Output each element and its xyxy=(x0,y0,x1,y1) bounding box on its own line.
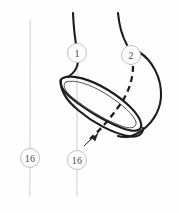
node-left-marker: 16 xyxy=(21,149,40,168)
strand-one-into-band xyxy=(68,62,78,77)
dashed-strand-group xyxy=(84,66,133,146)
node-strand-one: 1 xyxy=(68,44,87,63)
node-label-strand-one: 1 xyxy=(74,48,79,59)
node-label-center-marker: 16 xyxy=(72,155,82,166)
strand-two-upper xyxy=(118,13,127,45)
strand-two-outer-loop xyxy=(118,52,161,137)
node-strand-two: 2 xyxy=(122,46,141,65)
band-group xyxy=(60,77,143,137)
knot-diagram: 1 2 16 16 xyxy=(0,0,179,213)
figure-canvas: 1 2 16 16 xyxy=(0,0,179,213)
strand-one-upper xyxy=(73,13,76,44)
node-label-strand-two: 2 xyxy=(128,50,133,61)
node-center-marker: 16 xyxy=(68,151,87,170)
node-label-left-marker: 16 xyxy=(25,153,35,164)
arrow-head-icon xyxy=(84,133,98,146)
band-inner-contour xyxy=(64,81,136,128)
